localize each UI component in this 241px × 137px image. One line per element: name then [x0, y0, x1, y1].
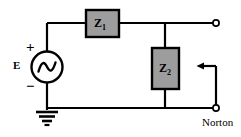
earth-ground-icon	[36, 112, 58, 125]
norton-arrowhead-icon	[197, 62, 205, 69]
source-label: E	[13, 60, 20, 71]
impedance-z1-subscript: 1	[102, 23, 106, 32]
ac-voltage-source	[32, 52, 63, 83]
impedance-z2-symbol: Z	[159, 61, 167, 75]
impedance-z1-label: Z1	[94, 17, 106, 32]
circuit-diagram: E + − Z1 Z2 Norton	[0, 0, 241, 137]
impedance-z2-subscript: 2	[167, 68, 171, 77]
impedance-z2-label: Z2	[159, 62, 171, 77]
source-polarity-negative: −	[26, 79, 35, 94]
bottom-output-terminal[interactable]	[213, 105, 219, 111]
norton-pointer	[197, 62, 217, 105]
norton-label: Norton	[202, 117, 233, 128]
source-polarity-positive: +	[26, 40, 35, 55]
wire-network	[47, 23, 213, 110]
top-output-terminal[interactable]	[213, 20, 219, 26]
impedance-z1-symbol: Z	[94, 16, 102, 30]
